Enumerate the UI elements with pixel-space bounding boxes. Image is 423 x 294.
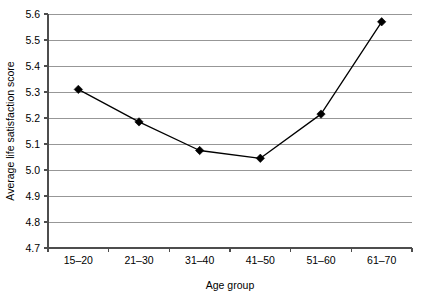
- series-line-satisfaction: [78, 22, 381, 159]
- y-tick-label-5.0: 5.0: [25, 164, 40, 176]
- y-tick-label-5.1: 5.1: [25, 138, 40, 150]
- y-tick-label-4.8: 4.8: [25, 216, 40, 228]
- data-point-2: [195, 146, 203, 154]
- x-tick-label-5: 61–70: [367, 254, 396, 266]
- y-tick-label-5.4: 5.4: [25, 60, 40, 72]
- chart-canvas: 4.74.84.95.05.15.25.35.45.55.615–2021–30…: [0, 0, 423, 294]
- y-tick-label-4.9: 4.9: [25, 190, 40, 202]
- y-tick-label-5.3: 5.3: [25, 86, 40, 98]
- y-tick-label-5.5: 5.5: [25, 34, 40, 46]
- data-point-5: [377, 18, 385, 26]
- x-tick-label-4: 51–60: [306, 254, 335, 266]
- x-axis-title: Age group: [206, 279, 255, 291]
- x-tick-label-0: 15–20: [64, 254, 93, 266]
- x-tick-label-3: 41–50: [246, 254, 275, 266]
- y-tick-label-5.2: 5.2: [25, 112, 40, 124]
- x-tick-label-2: 31–40: [185, 254, 214, 266]
- y-tick-label-5.6: 5.6: [25, 8, 40, 20]
- y-tick-label-4.7: 4.7: [25, 242, 40, 254]
- x-tick-label-1: 21–30: [124, 254, 153, 266]
- y-axis-title: Average life satisfaction score: [4, 61, 16, 200]
- line-chart: 4.74.84.95.05.15.25.35.45.55.615–2021–30…: [0, 0, 423, 294]
- data-point-1: [135, 118, 143, 126]
